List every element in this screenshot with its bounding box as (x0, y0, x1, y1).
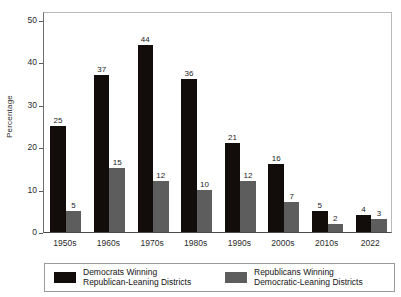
bar-value-label: 7 (289, 192, 293, 201)
y-axis-tick-label: 40 (15, 57, 37, 68)
x-axis-tick-label-1980s: 1980s (184, 238, 207, 248)
y-axis: 01020304050 (16, 12, 43, 233)
bar-group: 4412 (138, 13, 169, 232)
bar-value-label: 5 (318, 201, 322, 210)
x-axis-tick-label-1950s: 1950s (53, 238, 76, 248)
legend-entry-1: Democrats WinningRepublican-Leaning Dist… (54, 268, 191, 287)
bar-group: 3610 (181, 13, 212, 232)
chart-legend: Democrats WinningRepublican-Leaning Dist… (44, 263, 395, 292)
legend-label-line-1: Democrats Winning (83, 267, 157, 277)
bar-chart-figure: Percentage 01020304050 25537154412361021… (0, 0, 401, 297)
x-axis-tick-label-2010s: 2010s (315, 238, 338, 248)
legend-swatch-1 (54, 272, 76, 283)
y-axis-tick-label: 20 (15, 142, 37, 153)
bar-value-label: 4 (361, 205, 365, 214)
y-axis-tick-mark (39, 233, 43, 234)
bar-1960s-series-1: 37 (94, 75, 110, 232)
bar-value-label: 44 (141, 35, 150, 44)
y-axis-title-text: Percentage (5, 95, 14, 138)
legend-label-line-2: Republican-Leaning Districts (83, 278, 191, 288)
x-axis-tick-label-1960s: 1960s (97, 238, 120, 248)
bar-1950s-series-1: 25 (50, 126, 66, 232)
bar-2010s-series-1: 5 (312, 211, 328, 232)
legend-label-line-1: Republicans Winning (254, 267, 334, 277)
bar-group: 43 (356, 13, 387, 232)
bar-1970s-series-2: 12 (153, 181, 169, 232)
bar-value-label: 5 (71, 201, 75, 210)
bar-1980s-series-1: 36 (181, 79, 197, 232)
bar-value-label: 16 (272, 154, 281, 163)
legend-label-line-2: Democratic-Leaning Districts (254, 278, 363, 288)
bar-value-label: 2 (333, 214, 337, 223)
legend-swatch-2 (225, 272, 247, 283)
y-axis-tick-label: 10 (15, 185, 37, 196)
bar-value-label: 36 (184, 69, 193, 78)
bar-2022-series-1: 4 (356, 215, 372, 232)
y-axis-tick-label: 50 (15, 15, 37, 26)
bar-2000s-series-2: 7 (284, 202, 300, 232)
bar-value-label: 3 (377, 209, 381, 218)
y-axis-title: Percentage (2, 0, 16, 233)
bar-2022-series-2: 3 (371, 219, 387, 232)
bar-1990s-series-2: 12 (240, 181, 256, 232)
x-axis-tick-label-2022: 2022 (361, 238, 380, 248)
bar-2000s-series-1: 16 (268, 164, 284, 232)
bar-value-label: 37 (97, 65, 106, 74)
bar-group: 2112 (225, 13, 256, 232)
y-axis-tick-label: 0 (15, 227, 37, 238)
bar-1950s-series-2: 5 (66, 211, 82, 232)
x-axis: 1950s1960s1970s1980s1990s2000s2010s2022 (43, 235, 392, 251)
bar-value-label: 10 (200, 180, 209, 189)
legend-label-1: Democrats WinningRepublican-Leaning Dist… (83, 268, 191, 287)
bar-1960s-series-2: 15 (109, 168, 125, 232)
bar-value-label: 15 (113, 158, 122, 167)
bar-value-label: 12 (244, 171, 253, 180)
bar-group: 3715 (94, 13, 125, 232)
bar-group: 52 (312, 13, 343, 232)
x-axis-tick-label-1990s: 1990s (228, 238, 251, 248)
legend-label-2: Republicans WinningDemocratic-Leaning Di… (254, 268, 363, 287)
bar-1990s-series-1: 21 (225, 143, 241, 232)
y-axis-tick-label: 30 (15, 100, 37, 111)
legend-entry-2: Republicans WinningDemocratic-Leaning Di… (225, 268, 363, 287)
x-axis-tick-label-2000s: 2000s (271, 238, 294, 248)
bar-2010s-series-2: 2 (328, 224, 344, 233)
bar-value-label: 12 (156, 171, 165, 180)
bar-1970s-series-1: 44 (138, 45, 154, 232)
plot-area: 25537154412361021121675243 (44, 13, 391, 232)
bar-group: 255 (50, 13, 81, 232)
x-axis-tick-label-1970s: 1970s (140, 238, 163, 248)
bar-value-label: 21 (228, 133, 237, 142)
plot-frame: 25537154412361021121675243 (43, 12, 392, 233)
bar-1980s-series-2: 10 (197, 190, 213, 233)
bar-group: 167 (268, 13, 299, 232)
bar-value-label: 25 (54, 116, 63, 125)
